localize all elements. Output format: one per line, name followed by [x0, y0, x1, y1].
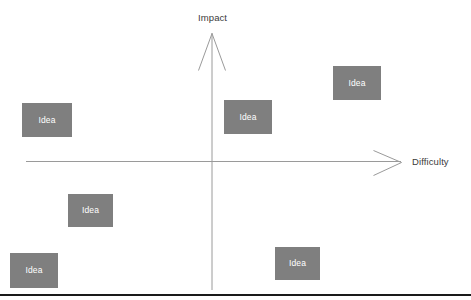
idea-box-label: Idea [240, 113, 257, 122]
idea-box-label: Idea [289, 259, 306, 268]
idea-box-label: Idea [82, 206, 99, 215]
difficulty-arrowhead-icon [374, 151, 402, 176]
axes-svg [0, 0, 471, 300]
matrix-canvas: Impact Difficulty IdeaIdeaIdeaIdeaIdeaId… [0, 0, 471, 300]
idea-box-label: Idea [349, 79, 366, 88]
idea-box-label: Idea [39, 116, 56, 125]
idea-box[interactable]: Idea [68, 194, 113, 227]
idea-box[interactable]: Idea [333, 66, 381, 100]
idea-box-label: Idea [26, 266, 43, 275]
idea-box[interactable]: Idea [224, 100, 272, 134]
idea-box[interactable]: Idea [10, 253, 58, 288]
idea-box[interactable]: Idea [22, 103, 72, 137]
idea-box[interactable]: Idea [275, 247, 320, 280]
impact-axis-label: Impact [198, 12, 227, 23]
bottom-divider [0, 294, 471, 296]
difficulty-axis-label: Difficulty [412, 156, 449, 167]
